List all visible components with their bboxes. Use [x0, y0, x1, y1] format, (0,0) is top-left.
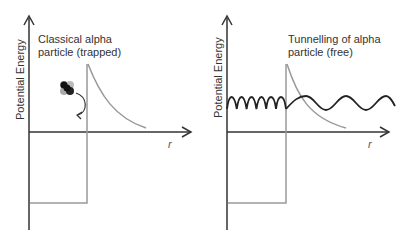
caption: Classical alpha particle (trapped): [38, 33, 121, 59]
wavefunction-inside: [227, 97, 286, 109]
x-axis-label: r: [168, 138, 172, 150]
alpha-particle-icon: [60, 81, 74, 95]
x-axis-label: r: [368, 138, 372, 150]
potential-well: [30, 64, 87, 203]
tunnelling-panel: Potential Energy Tunnelling of alpha par…: [204, 0, 408, 243]
classical-panel: Potential Energy Classical alpha particl…: [0, 0, 204, 243]
potential-well: [228, 64, 286, 203]
coulomb-barrier: [88, 64, 146, 128]
caption: Tunnelling of alpha particle (free): [288, 33, 381, 59]
bounce-arrow-icon: [76, 93, 85, 115]
y-axis-label: Potential Energy: [212, 37, 224, 118]
coulomb-barrier: [287, 64, 346, 128]
y-axis-label: Potential Energy: [14, 39, 26, 120]
